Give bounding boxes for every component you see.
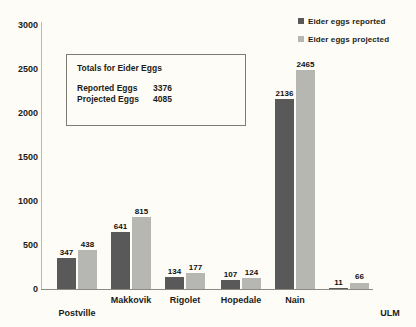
bar-ulm-projected <box>350 283 369 289</box>
totals-value-reported: 3376 <box>153 83 172 94</box>
bar-nain-projected <box>296 70 315 289</box>
bar-value-ulm-projected: 66 <box>350 272 369 281</box>
bar-postville-reported <box>57 258 76 289</box>
bar-hopedale-reported <box>221 280 240 290</box>
bar-value-ulm-reported: 11 <box>329 278 348 287</box>
eider-eggs-bar-chart: Eider eggs reported Eider eggs projected… <box>0 0 416 327</box>
bar-postville-projected <box>78 250 97 289</box>
bar-makkovik-projected <box>132 217 151 290</box>
x-label-rigolet: Rigolet <box>170 295 201 305</box>
x-axis-line <box>41 289 373 290</box>
bar-value-nain-projected: 2465 <box>296 60 315 69</box>
x-label-postville: Postville <box>58 308 95 318</box>
y-axis-tick-labels: 3000 2500 2000 1500 1000 500 0 <box>0 0 38 327</box>
y-tick-0: 0 <box>2 284 38 294</box>
y-tick-2500: 2500 <box>2 64 38 74</box>
bar-value-rigolet-projected: 177 <box>186 263 205 272</box>
bar-ulm-reported <box>329 288 348 289</box>
totals-title: Totals for Eider Eggs <box>77 63 235 73</box>
y-tick-3000: 3000 <box>2 20 38 30</box>
totals-row-projected: Projected Eggs 4085 <box>77 94 235 105</box>
y-tick-500: 500 <box>2 240 38 250</box>
y-tick-1000: 1000 <box>2 196 38 206</box>
totals-annotation-box: Totals for Eider Eggs Reported Eggs 3376… <box>66 54 246 126</box>
bar-nain-reported <box>275 99 294 289</box>
bar-value-postville-reported: 347 <box>57 248 76 257</box>
bar-value-postville-projected: 438 <box>78 240 97 249</box>
x-label-hopedale: Hopedale <box>221 295 262 305</box>
bar-value-hopedale-projected: 124 <box>242 268 261 277</box>
bar-makkovik-reported <box>111 232 130 289</box>
bar-group-ulm: 11 66 <box>326 22 374 289</box>
x-label-ulm: ULM <box>380 308 400 318</box>
bar-hopedale-projected <box>242 278 261 289</box>
bar-rigolet-reported <box>165 277 184 289</box>
bar-rigolet-projected <box>186 273 205 289</box>
bar-group-nain: 2136 2465 <box>272 22 320 289</box>
totals-row-reported: Reported Eggs 3376 <box>77 83 235 94</box>
totals-label-projected: Projected Eggs <box>77 94 153 105</box>
totals-value-projected: 4085 <box>153 94 172 105</box>
bar-value-makkovik-projected: 815 <box>132 207 151 216</box>
y-tick-1500: 1500 <box>2 152 38 162</box>
bar-value-makkovik-reported: 641 <box>111 222 130 231</box>
bar-value-rigolet-reported: 134 <box>165 267 184 276</box>
bar-value-hopedale-reported: 107 <box>221 270 240 279</box>
totals-label-reported: Reported Eggs <box>77 83 153 94</box>
bar-value-nain-reported: 2136 <box>275 89 294 98</box>
y-tick-2000: 2000 <box>2 108 38 118</box>
x-label-makkovik: Makkovik <box>111 295 152 305</box>
x-label-nain: Nain <box>285 295 305 305</box>
